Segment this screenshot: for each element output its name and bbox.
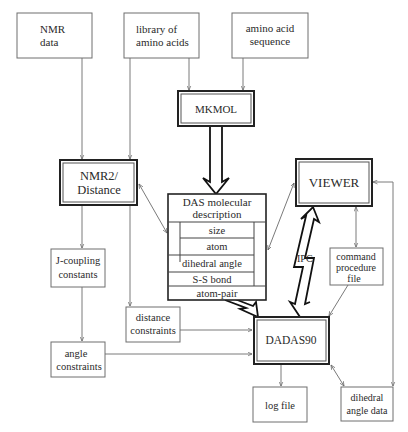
node-mkmol: MKMOL: [178, 91, 254, 126]
svg-text:data: data: [40, 36, 58, 48]
node-library-amino-acids: library of amino acids: [124, 13, 199, 58]
das-row-atom-pair: atom-pair: [197, 288, 238, 299]
node-log-file: log file: [253, 387, 307, 422]
node-viewer: VIEWER: [296, 159, 372, 206]
program-flow-diagram: IPC NMR data library of amino acids amin…: [0, 0, 408, 432]
edge-viewer-das: [268, 183, 294, 250]
node-command-procedure-file: command procedure file: [330, 248, 383, 285]
svg-text:command: command: [336, 251, 375, 262]
das-row-ss-bond: S-S bond: [193, 274, 233, 285]
thick-arrow-das-dadas90: [225, 298, 258, 317]
edge-command-dadas90: [329, 285, 348, 316]
svg-text:VIEWER: VIEWER: [309, 175, 360, 190]
svg-text:angle: angle: [65, 348, 88, 359]
svg-text:constraints: constraints: [56, 361, 102, 372]
svg-text:dihedral: dihedral: [351, 392, 384, 403]
svg-text:distance: distance: [136, 312, 171, 323]
svg-text:NMR2/: NMR2/: [80, 169, 119, 183]
svg-text:sequence: sequence: [250, 35, 290, 47]
svg-text:log file: log file: [265, 400, 295, 411]
svg-text:description: description: [193, 208, 242, 220]
svg-text:constants: constants: [58, 269, 97, 280]
das-row-size: size: [209, 225, 226, 236]
svg-text:Distance: Distance: [77, 183, 121, 197]
node-das-molecular-description: DAS molecular description size atom dihe…: [168, 194, 266, 300]
node-nmr2-distance: NMR2/ Distance: [60, 160, 137, 205]
node-dihedral-angle-data: dihedral angle data: [341, 387, 393, 421]
das-row-dihedral-angle: dihedral angle: [182, 258, 242, 269]
thick-arrow-mkmol-das: [203, 126, 229, 194]
svg-text:amino acids: amino acids: [136, 36, 189, 48]
ipc-bolt-arrow: IPC: [290, 207, 319, 317]
node-nmr-data: NMR data: [17, 13, 92, 58]
svg-text:J-coupling: J-coupling: [56, 255, 101, 266]
edge-dadas90-dihedral: [331, 365, 344, 386]
svg-text:amino acid: amino acid: [246, 22, 295, 34]
ipc-label: IPC: [297, 253, 313, 264]
node-angle-constraints: angle constraints: [51, 342, 105, 377]
svg-text:DADAS90: DADAS90: [265, 334, 316, 346]
svg-text:constraints: constraints: [130, 325, 176, 336]
svg-text:angle data: angle data: [347, 405, 388, 416]
svg-text:NMR: NMR: [40, 23, 66, 35]
node-dadas90: DADAS90: [254, 317, 329, 364]
svg-text:procedure: procedure: [336, 262, 377, 273]
svg-text:DAS molecular: DAS molecular: [183, 196, 252, 208]
edge-nmr2-das: [139, 184, 167, 233]
node-jcoupling-constants: J-coupling constants: [51, 249, 105, 287]
node-amino-acid-sequence: amino acid sequence: [232, 13, 308, 58]
node-distance-constraints: distance constraints: [126, 307, 180, 342]
svg-text:file: file: [347, 273, 361, 284]
svg-text:library of: library of: [136, 23, 178, 35]
svg-text:MKMOL: MKMOL: [195, 103, 237, 115]
das-row-atom: atom: [207, 241, 228, 252]
